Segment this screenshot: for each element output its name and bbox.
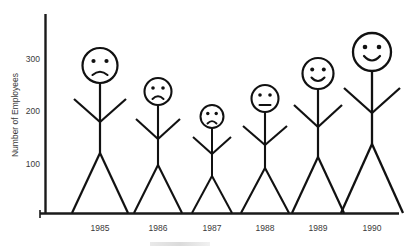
head-1990	[353, 33, 391, 71]
eye-left-1988	[258, 93, 262, 97]
stick-figure-1990	[341, 33, 403, 213]
head-1987	[201, 105, 224, 128]
x-tick-label-1986: 1986	[149, 223, 168, 233]
eye-left-1986	[151, 86, 155, 90]
y-axis-title: Number of Employees	[10, 73, 20, 157]
arm-right-1990	[372, 88, 400, 113]
stick-figure-1985	[72, 48, 128, 213]
eye-right-1987	[215, 112, 218, 115]
leg-left-1987	[192, 176, 212, 213]
leg-right-1985	[100, 153, 128, 213]
arm-left-1987	[193, 137, 212, 154]
eye-right-1985	[104, 59, 108, 63]
y-tick-label-200: 200	[26, 106, 40, 116]
head-1989	[303, 58, 334, 89]
leg-right-1989	[318, 157, 344, 213]
leg-left-1985	[72, 153, 100, 213]
arm-left-1985	[74, 99, 100, 122]
head-1988	[252, 85, 279, 112]
leg-left-1986	[134, 165, 158, 213]
leg-left-1988	[241, 168, 265, 213]
leg-right-1987	[212, 176, 232, 213]
leg-right-1986	[158, 165, 182, 213]
stick-figure-1989	[292, 58, 344, 213]
chart-canvas: 300 200 100 Number of Employees 1985 198…	[0, 0, 409, 250]
arm-right-1988	[265, 126, 287, 145]
arm-left-1989	[294, 105, 318, 127]
x-tick-label-1990: 1990	[363, 223, 382, 233]
x-tick-label-1985: 1985	[91, 223, 110, 233]
head-1986	[145, 78, 172, 105]
arm-right-1989	[318, 105, 342, 127]
arm-right-1986	[158, 119, 180, 139]
arm-right-1985	[100, 99, 126, 122]
arm-left-1986	[136, 119, 158, 139]
eye-left-1989	[310, 68, 314, 72]
y-tick-label-100: 100	[26, 159, 40, 169]
stick-figure-1986	[134, 78, 182, 213]
eye-right-1986	[161, 86, 165, 90]
stick-figure-1987	[192, 105, 232, 213]
head-1985	[83, 48, 118, 83]
eye-right-1988	[268, 93, 272, 97]
x-tick-label-1988: 1988	[256, 223, 275, 233]
employee-pictorial-chart: 300 200 100 Number of Employees 1985 198…	[0, 0, 409, 250]
arm-right-1987	[212, 137, 231, 154]
arm-left-1990	[344, 88, 372, 113]
x-tick-label-1987: 1987	[203, 223, 222, 233]
arm-left-1988	[243, 126, 265, 145]
eye-left-1985	[91, 59, 95, 63]
leg-left-1989	[292, 157, 318, 213]
eye-left-1987	[206, 112, 209, 115]
leg-right-1990	[372, 144, 403, 213]
leg-left-1990	[341, 144, 372, 213]
cropped-caption-remnant	[150, 242, 210, 246]
x-tick-label-1989: 1989	[309, 223, 328, 233]
eye-left-1990	[363, 45, 368, 50]
stick-figure-1988	[241, 85, 289, 213]
eye-right-1989	[322, 68, 326, 72]
eye-right-1990	[377, 45, 382, 50]
leg-right-1988	[265, 168, 289, 213]
y-tick-label-300: 300	[26, 54, 40, 64]
